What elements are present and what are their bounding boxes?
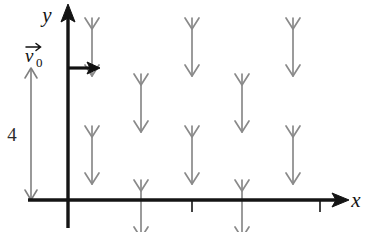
coordinate-axes bbox=[28, 4, 349, 228]
field-arrow bbox=[235, 180, 249, 232]
height-dimension bbox=[25, 68, 37, 200]
field-arrow bbox=[286, 18, 300, 76]
field-arrow bbox=[134, 180, 148, 232]
figure-labels: y x 4 v 0 bbox=[7, 3, 361, 212]
velocity-symbol: v bbox=[25, 45, 34, 66]
projectile-field-figure: y x 4 v 0 bbox=[0, 0, 375, 232]
dimension-value-label: 4 bbox=[7, 124, 17, 145]
velocity-vector-label: v 0 bbox=[25, 44, 43, 71]
velocity-subscript: 0 bbox=[36, 55, 43, 70]
field-arrow bbox=[134, 74, 148, 132]
field-arrow bbox=[185, 126, 199, 184]
field-arrow bbox=[85, 126, 99, 184]
field-arrow bbox=[235, 74, 249, 132]
field-arrow bbox=[185, 18, 199, 76]
field-arrow bbox=[286, 126, 300, 184]
figure-canvas: y x 4 v 0 bbox=[0, 0, 375, 232]
x-axis-label: x bbox=[350, 188, 361, 212]
y-axis-label: y bbox=[40, 3, 52, 27]
